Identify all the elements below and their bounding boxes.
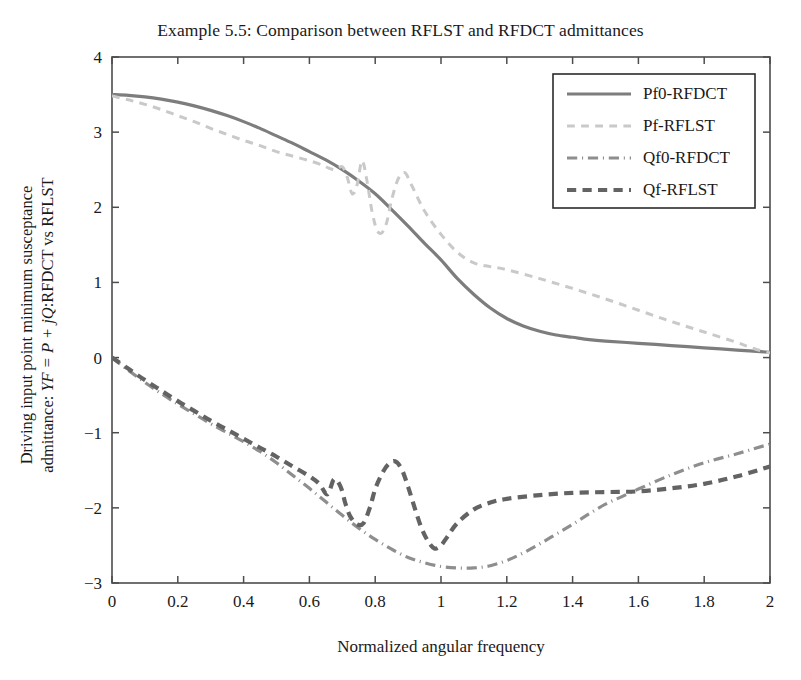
x-tick-label: 0.4 <box>233 592 255 611</box>
x-tick-label: 1 <box>437 592 446 611</box>
legend-label-qf0-rfdct: Qf0-RFDCT <box>643 148 731 167</box>
chart-figure: Example 5.5: Comparison between RFLST an… <box>0 0 801 680</box>
series-line-qf-rflst <box>112 358 770 549</box>
legend-label-qf-rflst: Qf-RFLST <box>643 180 718 199</box>
y-tick-label: −2 <box>84 499 102 518</box>
x-tick-label: 0.2 <box>167 592 188 611</box>
plot-canvas: 00.20.40.60.811.21.41.61.82−3−2−101234 P… <box>0 0 801 680</box>
x-tick-label: 0 <box>108 592 117 611</box>
y-tick-label: −3 <box>84 574 102 593</box>
chart-legend: Pf0-RFDCTPf-RFLSTQf0-RFDCTQf-RFLST <box>553 74 755 208</box>
legend-label-pf-rflst: Pf-RFLST <box>643 116 715 135</box>
x-tick-label: 0.6 <box>299 592 320 611</box>
y-tick-label: 0 <box>94 349 103 368</box>
x-axis-label: Normalized angular frequency <box>112 637 770 657</box>
x-tick-label: 1.4 <box>562 592 584 611</box>
x-tick-label: 2 <box>766 592 775 611</box>
x-tick-label: 1.2 <box>496 592 517 611</box>
x-tick-label: 1.6 <box>628 592 649 611</box>
y-tick-label: 1 <box>94 273 103 292</box>
y-tick-label: 2 <box>94 198 103 217</box>
legend-label-pf0-rfdct: Pf0-RFDCT <box>643 84 728 103</box>
x-tick-label: 1.8 <box>694 592 715 611</box>
y-tick-label: −1 <box>84 424 102 443</box>
y-tick-label: 3 <box>94 123 103 142</box>
x-tick-label: 0.8 <box>365 592 386 611</box>
series-line-qf0-rfdct <box>112 358 770 569</box>
y-tick-label: 4 <box>94 48 103 67</box>
